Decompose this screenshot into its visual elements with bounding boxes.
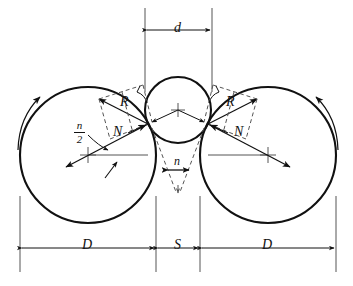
label-angle-half: n 2 (74, 120, 85, 145)
diagram-canvas: d R N R N n 2 n D S D (0, 0, 353, 286)
angle-pointer-half (88, 135, 108, 150)
label-d: d (174, 21, 181, 35)
label-R-right: R (226, 95, 235, 109)
dash-left-c (99, 99, 110, 139)
label-N-left: N (113, 125, 122, 139)
label-D-left: D (82, 238, 92, 252)
label-R-left: R (120, 95, 129, 109)
vector-N-right (208, 124, 290, 167)
dimension-chain-bottom (20, 196, 336, 272)
angle-half-denominator: 2 (74, 133, 85, 145)
label-angle-n: n (174, 155, 180, 167)
label-N-right: N (234, 125, 243, 139)
radius-center-to-left-contact (152, 110, 178, 122)
radius-center-to-right-contact (178, 110, 204, 122)
angle-half-numerator: n (74, 120, 85, 132)
angle-arrow-left-center (105, 162, 117, 178)
label-S: S (174, 238, 181, 252)
label-D-right: D (262, 238, 272, 252)
dash-right-c (246, 99, 257, 139)
dash-right-a (213, 85, 257, 99)
